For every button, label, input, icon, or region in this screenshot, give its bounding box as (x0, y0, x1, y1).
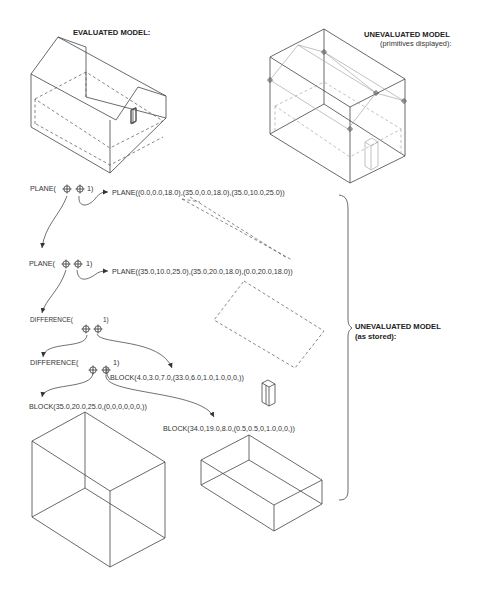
plane1-node: PLANE( (30, 185, 56, 192)
plane2-definition: PLANE((35.0,10.0,25.0),(35.0,20.0,18.0),… (112, 268, 293, 275)
plane1-tail: 1) (87, 185, 93, 192)
difference2-tail: 1) (113, 359, 119, 366)
brace (339, 195, 352, 500)
unevaluated-stored-subheading: (as stored): (355, 333, 396, 341)
unevaluated-primitives-drawing (267, 29, 407, 183)
difference2-node: DIFFERENCE( (30, 359, 78, 366)
csg-diagram-canvas (0, 0, 486, 600)
evaluated-house-drawing (31, 37, 166, 173)
plane2-tail: 1) (86, 260, 92, 267)
block-door-definition: BLOCK(4.0,3.0,7.0,(33.0,6.0,1.0,1.0,0,0,… (110, 374, 244, 381)
plane1-definition: PLANE((0.0,0.0,18.0),(35.0,0.0,18.0),(35… (112, 189, 285, 196)
block-inner-definition: BLOCK(34.0,19.0,8.0,(0.5,0.5,0,1.0,0,0,)… (163, 425, 295, 432)
difference1-tail: 1) (103, 317, 109, 323)
difference1-node: DIFFERENCE( (30, 317, 73, 323)
plane2-node: PLANE( (29, 260, 55, 267)
inner-block-drawing (201, 435, 322, 531)
tree-pointers (62, 185, 111, 375)
block-outer-definition: BLOCK(35.0,20.0,25.0,(0,0,0,0,0,0,)) (29, 403, 147, 410)
outer-block-drawing (32, 412, 165, 567)
unevaluated-display-heading: UNEVALUATED MODEL (364, 31, 450, 39)
evaluated-model-heading: EVALUATED MODEL: (73, 29, 150, 37)
tree-arrows (42, 192, 214, 417)
unevaluated-stored-heading: UNEVALUATED MODEL (355, 323, 441, 331)
unevaluated-display-subheading: (primitives displayed): (380, 40, 451, 47)
